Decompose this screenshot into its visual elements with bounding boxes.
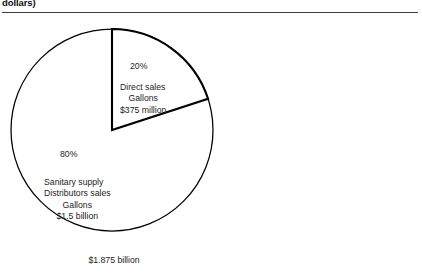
slice-amount-direct-sales: $375 million [120,105,166,116]
chart-total-caption: $1.875 billion [0,255,228,265]
slice-label-direct-sales-line2: Gallons [120,93,166,104]
slice-percent-sanitary-supply: 80% [60,149,77,160]
pie-chart-figure: 20% Direct sales Gallons $375 million 80… [0,18,240,242]
slice-percent-direct-sales: 20% [130,61,147,72]
pie-chart-svg [0,18,240,242]
slice-label-sanitary-supply-line2: Distributors sales [44,188,111,199]
page-title-fragment: dollars) [2,0,36,8]
slice-amount-sanitary-supply: $1.5 billion [44,211,111,222]
slice-label-direct-sales: Direct sales Gallons $375 million [120,82,166,116]
slice-label-direct-sales-line1: Direct sales [120,82,166,93]
slice-label-sanitary-supply-line3: Gallons [44,200,111,211]
header-divider [2,12,418,13]
slice-label-sanitary-supply-line1: Sanitary supply [44,177,111,188]
slice-label-sanitary-supply: Sanitary supply Distributors sales Gallo… [44,177,111,223]
